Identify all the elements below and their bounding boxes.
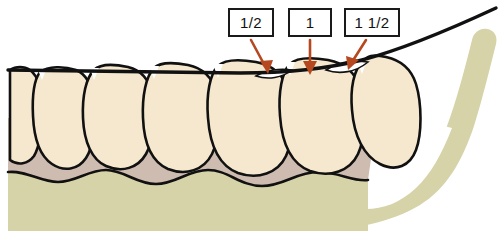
callout-box-half: 1/2: [228, 8, 274, 37]
callout-label-onehalf: 1 1/2: [355, 15, 390, 30]
callout-label-half: 1/2: [240, 15, 262, 30]
callout-box-one: 1: [288, 8, 332, 37]
curve-of-spee-figure: 1/2 1 1 1/2: [0, 0, 503, 231]
callout-label-one: 1: [306, 15, 315, 30]
callout-box-onehalf: 1 1/2: [344, 8, 400, 37]
